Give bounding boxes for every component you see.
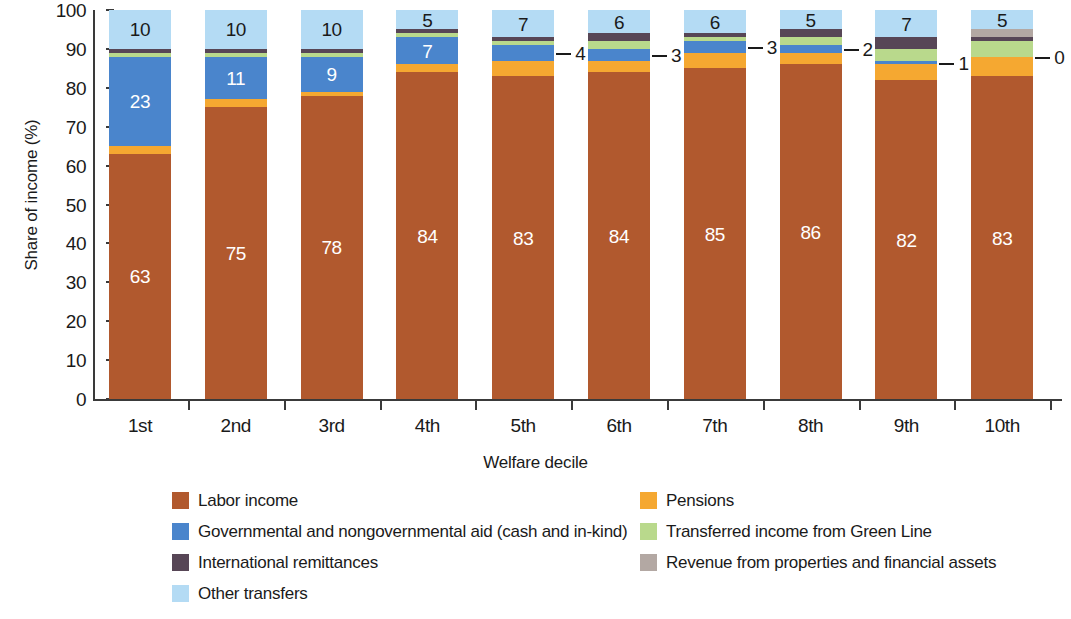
bar-segment[interactable]: [396, 64, 458, 72]
bar-1st[interactable]: 632310: [109, 10, 171, 399]
legend-item[interactable]: International remittances: [172, 554, 378, 571]
bar-segment[interactable]: [780, 29, 842, 37]
bar-segment[interactable]: [205, 49, 267, 53]
bar-segment[interactable]: [875, 61, 937, 65]
bar-8th[interactable]: 865: [780, 10, 842, 399]
bar-segment[interactable]: [875, 49, 937, 61]
bar-segment[interactable]: [684, 10, 746, 33]
legend-label: International remittances: [198, 554, 378, 571]
bar-segment[interactable]: [875, 64, 937, 80]
x-tick-mark: [475, 401, 477, 410]
bar-segment[interactable]: [875, 37, 937, 49]
bar-segment[interactable]: [492, 37, 554, 41]
callout-value-label: 3: [671, 45, 681, 64]
bar-segment[interactable]: [301, 49, 363, 53]
bar-segment[interactable]: [301, 96, 363, 399]
x-tick-mark: [188, 401, 190, 410]
bar-segment[interactable]: [588, 72, 650, 399]
bar-segment[interactable]: [205, 107, 267, 399]
bar-segment[interactable]: [492, 61, 554, 77]
bar-segment[interactable]: [492, 45, 554, 61]
bar-segment[interactable]: [780, 37, 842, 45]
bar-2nd[interactable]: 751110: [205, 10, 267, 399]
x-tick-label-9th: 9th: [894, 415, 919, 437]
bar-segment[interactable]: [301, 92, 363, 96]
bar-segment[interactable]: [109, 154, 171, 399]
bar-segment[interactable]: [205, 10, 267, 49]
legend-label: Pensions: [666, 492, 734, 509]
legend-swatch-icon: [172, 492, 189, 509]
bar-segment[interactable]: [396, 29, 458, 33]
bar-segment[interactable]: [205, 99, 267, 107]
callout-value-label: 0: [1054, 47, 1064, 66]
bar-segment[interactable]: [109, 10, 171, 49]
bar-segment[interactable]: [492, 10, 554, 37]
bar-10th[interactable]: 835: [971, 10, 1033, 399]
bar-segment[interactable]: [588, 10, 650, 33]
bar-segment[interactable]: [588, 33, 650, 41]
bar-segment[interactable]: [971, 29, 1033, 37]
legend-swatch-icon: [172, 523, 189, 540]
bar-segment[interactable]: [875, 80, 937, 399]
bar-segment[interactable]: [492, 41, 554, 45]
legend-swatch-icon: [172, 585, 189, 602]
bar-segment[interactable]: [780, 64, 842, 399]
legend-item[interactable]: Revenue from properties and financial as…: [640, 554, 996, 571]
bar-segment[interactable]: [396, 72, 458, 399]
callout-leader-line: [556, 53, 571, 55]
bar-segment[interactable]: [684, 37, 746, 41]
bar-segment[interactable]: [684, 41, 746, 53]
bar-segment[interactable]: [492, 76, 554, 399]
bar-segment[interactable]: [971, 76, 1033, 399]
bar-6th[interactable]: 846: [588, 10, 650, 399]
x-tick-label-7th: 7th: [702, 415, 727, 437]
bar-segment[interactable]: [684, 68, 746, 399]
bar-segment[interactable]: [396, 10, 458, 29]
bar-4th[interactable]: 8475: [396, 10, 458, 399]
bar-7th[interactable]: 856: [684, 10, 746, 399]
legend-label: Labor income: [198, 492, 298, 509]
bar-segment[interactable]: [588, 49, 650, 61]
x-tick-label-10th: 10th: [984, 415, 1019, 437]
bar-segment[interactable]: [971, 57, 1033, 76]
legend-item[interactable]: Pensions: [640, 492, 734, 509]
y-tick-label: 90: [28, 39, 86, 58]
bar-segment[interactable]: [971, 41, 1033, 57]
bar-segment[interactable]: [396, 37, 458, 64]
bar-segment[interactable]: [971, 10, 1033, 29]
legend-item[interactable]: Labor income: [172, 492, 298, 509]
bar-segment[interactable]: [109, 57, 171, 146]
chart-root: Share of income (%) 10090807060504030201…: [0, 0, 1071, 619]
bar-segment[interactable]: [301, 57, 363, 92]
bar-segment[interactable]: [588, 41, 650, 49]
bar-segment[interactable]: [684, 33, 746, 37]
bar-segment[interactable]: [684, 53, 746, 69]
bar-segment[interactable]: [971, 37, 1033, 41]
bar-5th[interactable]: 837: [492, 10, 554, 399]
bar-segment[interactable]: [780, 10, 842, 29]
bar-segment[interactable]: [205, 53, 267, 57]
y-tick-label: 60: [28, 156, 86, 175]
bar-segment[interactable]: [109, 49, 171, 53]
bar-segment[interactable]: [301, 53, 363, 57]
bar-segment[interactable]: [109, 146, 171, 154]
bar-segment[interactable]: [301, 10, 363, 49]
bar-segment[interactable]: [588, 61, 650, 73]
legend-label: Transferred income from Green Line: [666, 523, 932, 540]
callout-value-label: 4: [575, 43, 585, 62]
bar-segment[interactable]: [205, 57, 267, 100]
bar-3rd[interactable]: 78910: [301, 10, 363, 399]
legend-label: Governmental and nongovernmental aid (ca…: [198, 523, 627, 540]
bar-segment[interactable]: [109, 53, 171, 57]
legend-item[interactable]: Transferred income from Green Line: [640, 523, 932, 540]
x-tick-mark: [1050, 401, 1052, 410]
callout-value-label: 1: [958, 53, 968, 72]
bar-segment[interactable]: [780, 53, 842, 65]
bar-9th[interactable]: 827: [875, 10, 937, 399]
bar-segment[interactable]: [780, 45, 842, 53]
legend-item[interactable]: Other transfers: [172, 585, 308, 602]
legend-swatch-icon: [172, 554, 189, 571]
legend-item[interactable]: Governmental and nongovernmental aid (ca…: [172, 523, 627, 540]
bar-segment[interactable]: [875, 10, 937, 37]
bar-segment[interactable]: [396, 33, 458, 37]
